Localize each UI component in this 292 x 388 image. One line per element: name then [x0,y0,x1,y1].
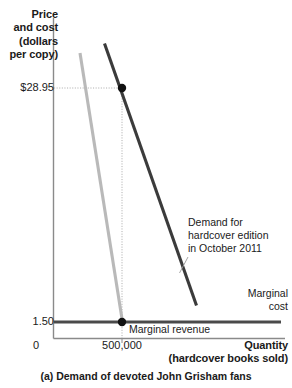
y-axis-title: Price and cost (dollars per copy) [0,8,58,62]
marginal-revenue-label: Marginal revenue [129,323,210,336]
marginal-cost-label: Marginal cost [200,287,288,313]
x-axis-tick-label-quantity: 500,000 [90,339,154,352]
x-axis-title: Quantity (hardcover books sold) [152,339,288,366]
figure-caption: (a) Demand of devoted John Grisham fans [0,370,292,383]
economics-demand-chart-figure: Price and cost (dollars per copy) $28.95… [0,0,292,388]
marginal-revenue-equals-cost-point [118,318,126,326]
demand-curve-label: Demand for hardcover edition in October … [188,216,292,254]
y-axis-tick-label-price: $28.95 [0,81,54,94]
x-axis-origin-label: 0 [33,339,39,352]
y-axis-tick-label-cost: 1.50 [0,315,54,328]
marginal-revenue-line [80,53,123,322]
profit-maximizing-price-point [118,84,126,92]
